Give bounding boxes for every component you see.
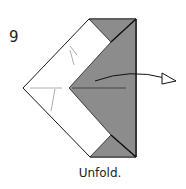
origami-diagram	[0, 0, 186, 189]
arrowhead-icon	[162, 73, 176, 84]
step-instruction: Unfold.	[0, 166, 186, 180]
